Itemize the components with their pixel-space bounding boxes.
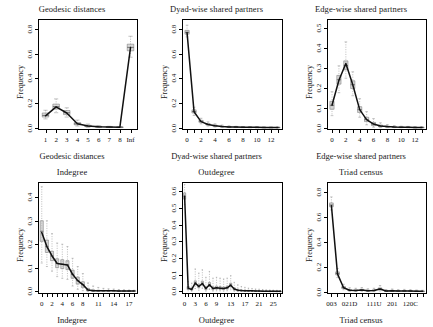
- boxplot: [198, 273, 200, 290]
- y-tick-label: 0.0: [315, 124, 324, 132]
- y-tick-label: 0.1: [170, 271, 179, 279]
- y-tick-label: 0.6: [26, 50, 35, 58]
- y-tick-label: 0.8: [26, 25, 35, 33]
- panel-title: Indegree: [0, 167, 144, 177]
- panel-title: Dyad-wise shared partners: [144, 4, 289, 14]
- x-tick-mark: [266, 294, 267, 297]
- x-tick-mark: [360, 130, 361, 133]
- x-tick-label: 11: [95, 300, 102, 308]
- plot-canvas: [38, 19, 138, 130]
- x-tick-mark: [278, 130, 279, 133]
- y-tick-label: 0.2: [170, 99, 179, 107]
- x-tick-mark: [410, 294, 411, 297]
- gof-panel-4: IndegreeFrequencyIndegree0.00.10.20.30.4…: [0, 163, 144, 327]
- x-tick-mark: [252, 294, 253, 297]
- x-tick-mark: [57, 294, 58, 297]
- x-tick-mark: [134, 294, 135, 297]
- x-tick-mark: [227, 294, 228, 297]
- x-tick-mark: [263, 294, 264, 297]
- x-axis-ticks: 003021D111U201120C: [327, 294, 427, 318]
- boxplot: [40, 187, 43, 263]
- y-axis-ticks: 0.00.10.20.30.40.5: [289, 19, 327, 130]
- boxplot: [53, 99, 60, 113]
- x-tick-label: 0: [185, 136, 189, 144]
- boxplot: [219, 278, 221, 291]
- x-tick-label: 3: [194, 300, 198, 308]
- y-tick-label: 0.5: [170, 204, 179, 212]
- x-tick-mark: [271, 130, 272, 133]
- x-tick-mark: [220, 294, 221, 297]
- x-tick-mark: [131, 130, 132, 133]
- x-tick-mark: [394, 130, 395, 133]
- x-tick-mark: [93, 294, 94, 297]
- x-tick-mark: [119, 294, 120, 297]
- x-tick-mark: [120, 130, 121, 133]
- x-tick-label: 6: [71, 300, 75, 308]
- x-tick-mark: [103, 294, 104, 297]
- plot-canvas: [182, 19, 283, 130]
- boxplot: [127, 36, 134, 57]
- x-tick-mark: [332, 130, 333, 133]
- x-tick-mark: [202, 294, 203, 297]
- x-tick-mark: [224, 294, 225, 297]
- x-tick-label: 2: [50, 300, 54, 308]
- plot-canvas: [182, 182, 283, 294]
- x-tick-label: 2: [344, 136, 348, 144]
- x-tick-mark: [380, 294, 381, 297]
- x-tick-mark: [337, 294, 338, 297]
- x-tick-mark: [236, 130, 237, 133]
- x-tick-label: 0: [183, 300, 187, 308]
- x-tick-mark: [109, 130, 110, 133]
- x-tick-label: 6: [97, 136, 101, 144]
- x-tick-mark: [398, 294, 399, 297]
- y-axis-ticks: 0.00.20.40.60.8: [0, 19, 38, 130]
- boxplot: [215, 277, 217, 291]
- x-tick-label: 14: [110, 300, 117, 308]
- panel-title: Triad census: [289, 167, 433, 177]
- x-tick-label: 021D: [342, 300, 358, 308]
- x-tick-mark: [206, 294, 207, 297]
- x-axis-ticks: 02468111417: [38, 294, 138, 318]
- y-tick-label: 0.8: [170, 25, 179, 33]
- gof-panel-6: Triad censusFrequencyTriad census0.00.20…: [289, 163, 433, 327]
- x-tick-mark: [387, 130, 388, 133]
- x-tick-label: 17: [126, 300, 133, 308]
- x-tick-mark: [331, 294, 332, 297]
- x-tick-mark: [280, 294, 281, 297]
- x-tick-mark: [245, 294, 246, 297]
- x-tick-label: 4: [76, 136, 80, 144]
- x-tick-mark: [192, 294, 193, 297]
- x-tick-mark: [209, 294, 210, 297]
- plot-canvas: [327, 19, 427, 130]
- x-tick-mark: [124, 294, 125, 297]
- boxplot: [223, 279, 225, 291]
- x-tick-mark: [339, 130, 340, 133]
- x-tick-mark: [83, 294, 84, 297]
- x-tick-mark: [250, 130, 251, 133]
- y-tick-label: 0.1: [315, 104, 324, 112]
- x-tick-mark: [386, 294, 387, 297]
- x-tick-mark: [367, 130, 368, 133]
- x-tick-mark: [195, 294, 196, 297]
- x-tick-mark: [270, 294, 271, 297]
- y-tick-label: 0.4: [26, 193, 35, 201]
- panel-title: Geodesic distances: [0, 4, 144, 14]
- y-tick-label: 0.1: [26, 264, 35, 272]
- boxplot: [76, 267, 79, 290]
- x-tick-mark: [73, 294, 74, 297]
- x-tick-label: 10: [253, 136, 260, 144]
- y-tick-label: 0.2: [315, 84, 324, 92]
- gof-panel-5: OutdegreeFrequencyOutdegree0.00.10.20.30…: [144, 163, 289, 327]
- x-tick-mark: [194, 130, 195, 133]
- x-tick-label: 21: [256, 300, 263, 308]
- x-tick-mark: [353, 130, 354, 133]
- y-axis-ticks: 0.00.10.20.30.4: [0, 182, 38, 294]
- x-tick-mark: [368, 294, 369, 297]
- x-tick-label: 8: [81, 300, 85, 308]
- x-tick-mark: [215, 130, 216, 133]
- x-tick-mark: [201, 130, 202, 133]
- boxplot: [81, 274, 84, 291]
- x-axis-ticks: 12345678Inf: [38, 130, 138, 154]
- boxplot: [56, 243, 59, 277]
- x-tick-label: 12: [412, 136, 419, 144]
